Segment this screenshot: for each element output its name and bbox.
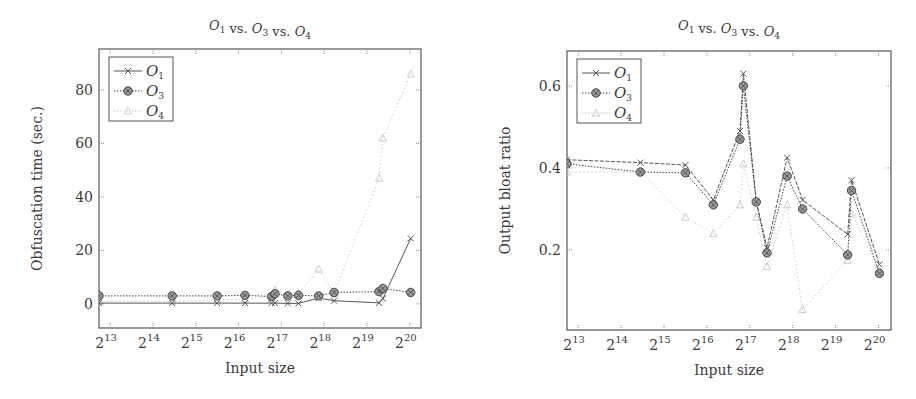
chart-title: O1 vs. O3 vs. O4	[678, 18, 780, 41]
chart-canvas: O1 vs. O3 vs. O4213214215216217218219220…	[0, 0, 458, 399]
x-tick-label: 218	[778, 334, 800, 353]
y-tick-label: 60	[75, 135, 93, 151]
x-tick-label: 219	[352, 332, 374, 351]
y-tick-label: 80	[75, 82, 93, 98]
series-o1	[96, 235, 414, 306]
y-tick-label: 40	[75, 189, 93, 205]
x-tick-label: 219	[821, 334, 843, 353]
output-bloat-chart: O1 vs. O3 vs. O4213214215216217218219220…	[458, 0, 916, 399]
x-tick-label: 217	[735, 334, 757, 353]
x-tick-label: 213	[95, 332, 117, 351]
y-axis-label: Obfuscation time (sec.)	[29, 106, 45, 271]
chart-canvas: O1 vs. O3 vs. O4213214215216217218219220…	[458, 0, 916, 399]
x-tick-label: 216	[224, 332, 246, 351]
x-tick-label: 218	[309, 332, 331, 351]
chart-title: O1 vs. O3 vs. O4	[209, 18, 311, 41]
x-tick-label: 215	[181, 332, 203, 351]
y-tick-label: 20	[75, 242, 93, 258]
obfuscation-time-chart: O1 vs. O3 vs. O4213214215216217218219220…	[0, 0, 458, 399]
series-o3	[95, 284, 415, 300]
x-tick-label: 215	[649, 334, 671, 353]
x-tick-label: 216	[692, 334, 714, 353]
legend: O1O3O4	[577, 59, 641, 123]
x-tick-label: 220	[395, 332, 417, 351]
legend: O1O3O4	[109, 57, 173, 121]
x-tick-label: 220	[864, 334, 886, 353]
y-tick-label: 0.4	[539, 160, 561, 176]
x-tick-label: 214	[138, 332, 160, 351]
x-axis-label: Input size	[694, 362, 764, 378]
x-tick-label: 214	[606, 334, 628, 353]
x-tick-label: 217	[267, 332, 289, 351]
x-tick-label: 213	[563, 334, 585, 353]
y-tick-label: 0.6	[539, 78, 561, 94]
y-tick-label: 0	[84, 296, 93, 312]
x-axis-label: Input size	[225, 360, 295, 376]
series-o4	[564, 160, 883, 313]
y-axis-label: Output bloat ratio	[497, 126, 513, 254]
y-tick-label: 0.2	[539, 242, 561, 258]
